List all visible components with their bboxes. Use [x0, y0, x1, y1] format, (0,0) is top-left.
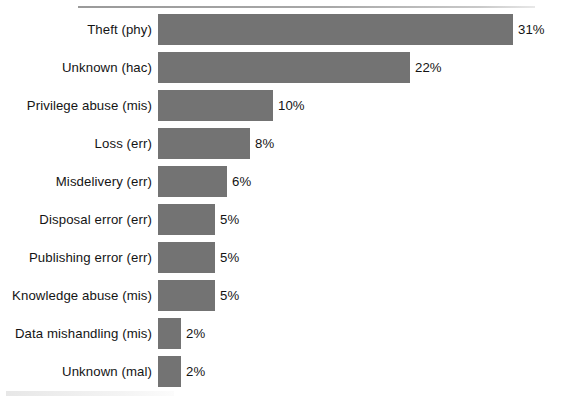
bar-category-label: Publishing error (err) — [29, 242, 152, 273]
bar-row: Knowledge abuse (mis)5% — [0, 280, 563, 311]
bar-category-label: Data mishandling (mis) — [15, 318, 152, 349]
bar-value-label: 31% — [518, 14, 545, 45]
bar-value-label: 5% — [220, 242, 239, 273]
bar-value-label: 22% — [415, 52, 442, 83]
bar-row: Unknown (mal)2% — [0, 356, 563, 387]
bar-value-label: 5% — [220, 280, 239, 311]
bar-value-label: 8% — [255, 128, 274, 159]
bar-row: Data mishandling (mis)2% — [0, 318, 563, 349]
bar-category-label: Loss (err) — [95, 128, 152, 159]
bar-value-label: 5% — [220, 204, 239, 235]
bar-row: Misdelivery (err)6% — [0, 166, 563, 197]
bar-category-label: Misdelivery (err) — [56, 166, 152, 197]
bar — [158, 14, 513, 45]
bar-category-label: Unknown (mal) — [62, 356, 152, 387]
bar-row: Publishing error (err)5% — [0, 242, 563, 273]
bar-row: Unknown (hac)22% — [0, 52, 563, 83]
bar-chart-figure: Theft (phy)31%Unknown (hac)22%Privilege … — [0, 0, 563, 401]
bar-row: Privilege abuse (mis)10% — [0, 90, 563, 121]
bar — [158, 90, 273, 121]
bar — [158, 242, 215, 273]
bar-value-label: 10% — [278, 90, 305, 121]
header-divider-rule — [78, 6, 535, 8]
bar-category-label: Privilege abuse (mis) — [27, 90, 152, 121]
bar-category-label: Theft (phy) — [87, 14, 152, 45]
page-artifact — [6, 391, 174, 396]
bar — [158, 356, 181, 387]
bar — [158, 52, 410, 83]
bar-category-label: Unknown (hac) — [62, 52, 152, 83]
chart-plot-area: Theft (phy)31%Unknown (hac)22%Privilege … — [0, 14, 563, 401]
bar-category-label: Disposal error (err) — [39, 204, 152, 235]
bar-row: Loss (err)8% — [0, 128, 563, 159]
bar-category-label: Knowledge abuse (mis) — [12, 280, 152, 311]
bar — [158, 166, 227, 197]
bar-row: Theft (phy)31% — [0, 14, 563, 45]
bar-row: Disposal error (err)5% — [0, 204, 563, 235]
bar-value-label: 2% — [186, 356, 205, 387]
bar — [158, 128, 250, 159]
bar — [158, 280, 215, 311]
bar-value-label: 2% — [186, 318, 205, 349]
bar-value-label: 6% — [232, 166, 251, 197]
bar — [158, 204, 215, 235]
bar — [158, 318, 181, 349]
